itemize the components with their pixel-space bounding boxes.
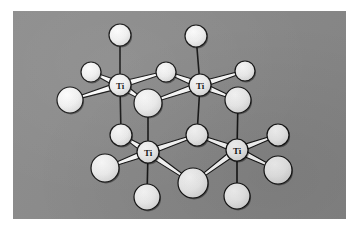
atom-layer: TiTiTiTi <box>57 24 293 211</box>
ligand-atom <box>185 25 208 48</box>
metal-atom: Ti <box>109 74 132 97</box>
metal-atom: Ti <box>137 141 160 164</box>
metal-atom: Ti <box>189 74 212 97</box>
ligand-atom <box>224 183 251 210</box>
ligand-atom <box>91 154 120 183</box>
ligand-atom <box>225 87 252 114</box>
ligand-atom <box>134 184 161 211</box>
ligand-atom <box>110 124 133 147</box>
atom-label: Ti <box>233 146 242 156</box>
ligand-atom <box>156 62 177 83</box>
ligand-atom <box>267 124 290 147</box>
figure-root: TiTiTiTi <box>0 0 357 235</box>
crystal-structure-plate: TiTiTiTi <box>13 11 346 219</box>
ligand-atom <box>81 62 102 83</box>
ligand-atom <box>109 24 132 47</box>
atom-label: Ti <box>116 81 125 91</box>
atom-label: Ti <box>144 148 153 158</box>
atom-label: Ti <box>196 81 205 91</box>
ligand-atom <box>134 89 163 118</box>
ligand-atom <box>57 87 84 114</box>
ligand-atom <box>235 61 256 82</box>
ligand-atom <box>186 124 209 147</box>
crystal-structure-diagram: TiTiTiTi <box>13 11 346 219</box>
ligand-atom <box>178 168 209 199</box>
structure-scene: TiTiTiTi <box>13 11 346 219</box>
ligand-atom <box>264 156 293 185</box>
